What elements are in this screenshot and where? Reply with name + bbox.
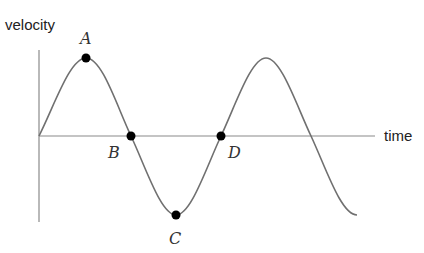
y-axis-label: velocity	[5, 16, 56, 33]
label-b: B	[107, 143, 120, 162]
point-a	[82, 54, 91, 63]
point-c	[172, 211, 181, 220]
label-a: A	[78, 29, 92, 48]
label-c: C	[169, 229, 181, 248]
velocity-time-diagram: velocity time A B C D	[0, 0, 424, 253]
point-d	[217, 132, 226, 141]
x-axis-label: time	[384, 127, 412, 144]
point-b	[127, 132, 136, 141]
label-d: D	[227, 143, 241, 162]
